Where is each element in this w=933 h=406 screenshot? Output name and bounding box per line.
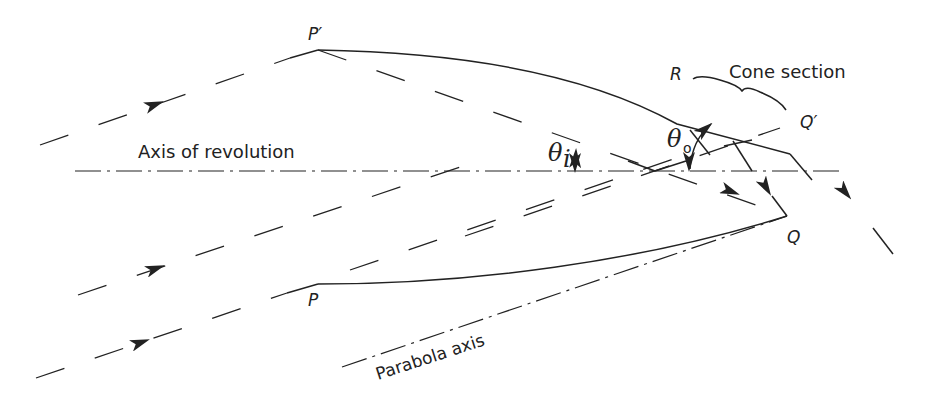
svg-text:θ: θ xyxy=(667,125,682,153)
svg-text:o: o xyxy=(683,140,692,156)
label-point-p: P xyxy=(308,290,319,310)
label-point-p-prime: P′ xyxy=(308,24,322,44)
parabola-axis-line xyxy=(342,216,787,367)
incident-ray-1 xyxy=(40,58,290,145)
incident-ray-3 xyxy=(36,293,287,378)
svg-text:i: i xyxy=(563,145,571,173)
svg-text:θ: θ xyxy=(548,139,563,167)
cone-reflect-ray-2 xyxy=(733,141,752,171)
exit-arrow xyxy=(832,176,850,198)
exit-ray-q-prime xyxy=(790,154,812,180)
theta-i-label: θ i xyxy=(548,139,571,173)
incident-arrow-3 xyxy=(125,340,148,348)
theta-o-label: θ o xyxy=(667,125,692,156)
concentrator-diagram: Axis of revolution Parabola axis Cone se… xyxy=(0,0,933,406)
theta-i-arrow-up xyxy=(575,150,576,170)
incident-ray-2 xyxy=(78,167,460,295)
label-point-r: R xyxy=(670,64,682,84)
label-cone-section: Cone section xyxy=(729,61,846,82)
p-prime-ray-end xyxy=(290,50,318,58)
lower-reflector-profile xyxy=(318,216,787,284)
theta-o-ray xyxy=(655,161,686,171)
reflected-arrow-2 xyxy=(757,172,770,194)
theta-o-ray-in xyxy=(628,161,655,171)
reflected-tail-q xyxy=(772,196,787,216)
label-axis-of-revolution: Axis of revolution xyxy=(138,141,295,162)
exit-ray-tail xyxy=(873,228,893,254)
label-point-q-prime: Q′ xyxy=(800,112,817,132)
label-parabola-axis: Parabola axis xyxy=(373,330,487,384)
label-point-q: Q xyxy=(787,227,800,247)
reflected-arrow-1 xyxy=(712,184,738,194)
